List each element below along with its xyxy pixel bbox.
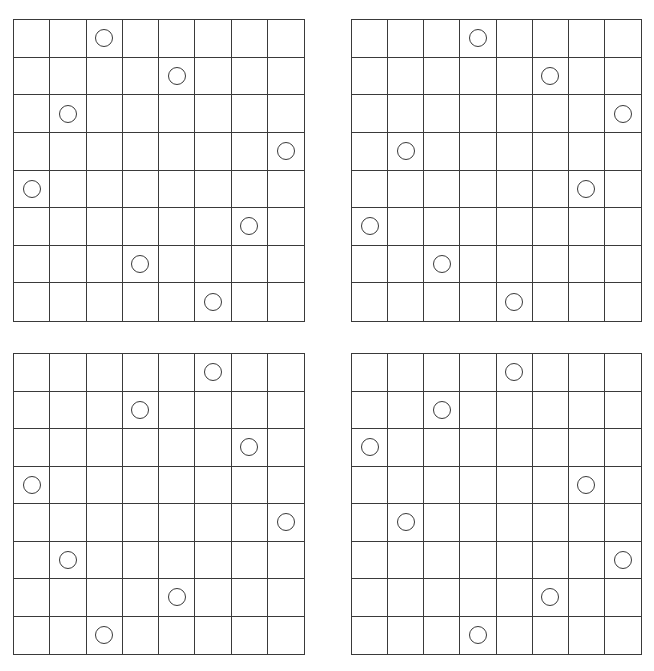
grid-cell <box>14 392 50 430</box>
grid-cell <box>195 617 231 655</box>
grid-cell <box>123 579 159 617</box>
grid-cell <box>14 171 50 209</box>
grid-cell <box>195 171 231 209</box>
grid-cell <box>195 504 231 542</box>
grid-cell <box>497 542 533 580</box>
grid-cell <box>195 467 231 505</box>
grid-cell <box>268 429 304 467</box>
grid-cell <box>352 246 388 284</box>
grid-cell <box>533 579 569 617</box>
grid-cell <box>14 20 50 58</box>
grid-cell <box>460 504 496 542</box>
circle-icon <box>361 217 379 235</box>
grid-cell <box>268 171 304 209</box>
grid-cell <box>497 246 533 284</box>
grid-cell <box>569 617 605 655</box>
grid-cell <box>50 95 86 133</box>
grid-cell <box>460 133 496 171</box>
grid-cell <box>87 171 123 209</box>
grid-cell <box>497 171 533 209</box>
grid-cell <box>388 429 424 467</box>
grid-cell <box>50 354 86 392</box>
grid-cell <box>497 95 533 133</box>
grid-cell <box>388 542 424 580</box>
grid-cell <box>388 20 424 58</box>
grid-cell <box>123 467 159 505</box>
grid-cell <box>352 392 388 430</box>
grid-cell <box>424 133 460 171</box>
circle-icon <box>541 67 559 85</box>
grid-cell <box>533 246 569 284</box>
circle-icon <box>240 438 258 456</box>
grid-cell <box>232 542 268 580</box>
circle-icon <box>131 255 149 273</box>
grid-cell <box>424 354 460 392</box>
grid-cell <box>195 354 231 392</box>
grid-cell <box>569 58 605 96</box>
grid-cell <box>195 20 231 58</box>
grid-cell <box>352 58 388 96</box>
grid-cell <box>460 542 496 580</box>
grid-cell <box>87 133 123 171</box>
grid-cell <box>460 20 496 58</box>
grid-cell <box>50 171 86 209</box>
grid-cell <box>195 133 231 171</box>
grid-cell <box>605 429 641 467</box>
grid-cell <box>424 246 460 284</box>
grid-cell <box>533 283 569 321</box>
circle-icon <box>397 513 415 531</box>
grid-cell <box>497 504 533 542</box>
grid-cell <box>159 95 195 133</box>
grid-cell <box>14 542 50 580</box>
board-bottom-left <box>13 353 305 655</box>
grid-cell <box>159 467 195 505</box>
grid-cell <box>569 208 605 246</box>
grid-cell <box>424 617 460 655</box>
grid-cell <box>195 542 231 580</box>
grid-cell <box>569 283 605 321</box>
grid-cell <box>195 95 231 133</box>
grid-cell <box>460 283 496 321</box>
grid-cell <box>460 617 496 655</box>
circle-icon <box>59 551 77 569</box>
grid-cell <box>460 429 496 467</box>
grid-cell <box>605 542 641 580</box>
grid-cell <box>87 467 123 505</box>
grid-cell <box>123 95 159 133</box>
grid-cell <box>268 467 304 505</box>
grid-cell <box>87 95 123 133</box>
grid-cell <box>14 95 50 133</box>
grid-cell <box>268 354 304 392</box>
grid-cell <box>87 246 123 284</box>
grid-cell <box>123 542 159 580</box>
grid-cell <box>159 504 195 542</box>
grid-cell <box>232 133 268 171</box>
grid-cell <box>159 171 195 209</box>
grid-cell <box>123 392 159 430</box>
grid-cell <box>533 171 569 209</box>
grid-cell <box>533 504 569 542</box>
grid-cell <box>87 617 123 655</box>
grid-cell <box>87 354 123 392</box>
circle-icon <box>277 142 295 160</box>
grid-cell <box>569 133 605 171</box>
grid-cell <box>388 617 424 655</box>
grid-cell <box>533 617 569 655</box>
grid-cell <box>195 579 231 617</box>
grid-cell <box>352 617 388 655</box>
grid-cell <box>605 208 641 246</box>
circle-icon <box>277 513 295 531</box>
grid-cell <box>424 95 460 133</box>
grid-cell <box>388 467 424 505</box>
grid-cell <box>460 58 496 96</box>
grid-cell <box>533 95 569 133</box>
grid-cell <box>87 429 123 467</box>
grid-cell <box>123 20 159 58</box>
grid-cell <box>123 354 159 392</box>
grid-cell <box>159 283 195 321</box>
grid-cell <box>50 133 86 171</box>
grid-cell <box>605 171 641 209</box>
grid-cell <box>388 133 424 171</box>
grid-cell <box>159 617 195 655</box>
grid-cell <box>159 429 195 467</box>
